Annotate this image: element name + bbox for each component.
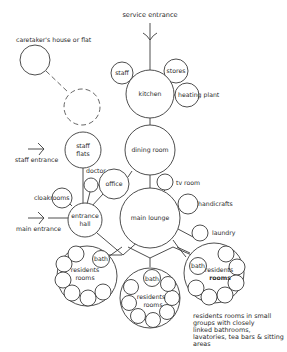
doctor-circle bbox=[84, 178, 98, 192]
rooms-label: rooms bbox=[143, 301, 162, 308]
resident-room bbox=[122, 296, 137, 311]
residents-group-right: bath residents rooms bbox=[184, 243, 245, 305]
right-arrow-icon bbox=[28, 143, 44, 155]
main-entrance: main entrance bbox=[16, 212, 61, 232]
office-label: office bbox=[106, 180, 123, 187]
staff-entrance-label: staff entrance bbox=[15, 156, 58, 163]
staff-label: staff bbox=[115, 69, 129, 76]
tv-room-label: tv room bbox=[176, 179, 200, 186]
residents-label: residents bbox=[71, 266, 99, 273]
handicrafts-label: handicrafts bbox=[198, 200, 233, 207]
description-note: residents rooms in small groups with clo… bbox=[193, 312, 284, 348]
caretaker-house: caretaker's house or flat bbox=[16, 36, 100, 125]
handicrafts-circle bbox=[178, 194, 198, 214]
caretaker-dashed-link bbox=[46, 71, 69, 93]
resident-room bbox=[218, 246, 234, 262]
service-entrance-label: service entrance bbox=[122, 11, 177, 19]
bath-label: bath bbox=[94, 255, 108, 262]
resident-room bbox=[217, 287, 233, 303]
laundry-circle bbox=[192, 225, 208, 241]
caretaker-circle bbox=[20, 45, 50, 75]
residents-label: residents bbox=[137, 293, 165, 300]
description-line: areas bbox=[193, 340, 211, 348]
resident-room bbox=[80, 290, 96, 306]
staff-flats-label-1: staff bbox=[76, 142, 90, 149]
residents-group-middle: bath residents rooms bbox=[120, 268, 180, 328]
care-home-bubble-diagram: service entrance caretaker's house or fl… bbox=[0, 0, 287, 352]
staff-flats-label-2: flats bbox=[76, 150, 89, 157]
right-arrow-icon bbox=[28, 212, 44, 224]
caretaker-label: caretaker's house or flat bbox=[16, 36, 92, 43]
heating-plant-label: heating plant bbox=[178, 91, 220, 99]
resident-room bbox=[161, 277, 176, 292]
cloakrooms-label: cloakrooms bbox=[34, 194, 70, 201]
staff-entrance: staff entrance bbox=[15, 143, 58, 163]
resident-room bbox=[188, 280, 204, 296]
tv-room-circle bbox=[157, 174, 173, 190]
resident-room bbox=[131, 309, 146, 324]
kitchen-label: kitchen bbox=[139, 90, 162, 97]
bath-label: bath bbox=[145, 275, 159, 282]
bath-label: bath bbox=[191, 262, 205, 269]
resident-room bbox=[146, 313, 161, 328]
residents-label: residents bbox=[205, 266, 233, 273]
main-entrance-label: main entrance bbox=[16, 225, 61, 232]
rooms-label: rooms bbox=[209, 274, 231, 281]
laundry-label: laundry bbox=[212, 229, 236, 237]
entrance-hall-label-1: entrance bbox=[71, 212, 99, 219]
resident-room bbox=[95, 284, 111, 300]
resident-room bbox=[64, 285, 80, 301]
entrance-hall-label-2: hall bbox=[79, 220, 90, 227]
residents-group-left: bath residents rooms bbox=[55, 246, 117, 306]
down-arrow-icon bbox=[143, 23, 157, 70]
kitchen-cluster: staff stores heating plant kitchen bbox=[111, 59, 220, 118]
dashed-future-circle bbox=[64, 89, 100, 125]
rooms-label: rooms bbox=[75, 274, 94, 281]
resident-room bbox=[165, 291, 180, 306]
dining-room-label: dining room bbox=[131, 146, 168, 154]
main-lounge-label: main lounge bbox=[131, 214, 170, 222]
stores-label: stores bbox=[167, 67, 186, 74]
resident-room bbox=[56, 256, 72, 272]
